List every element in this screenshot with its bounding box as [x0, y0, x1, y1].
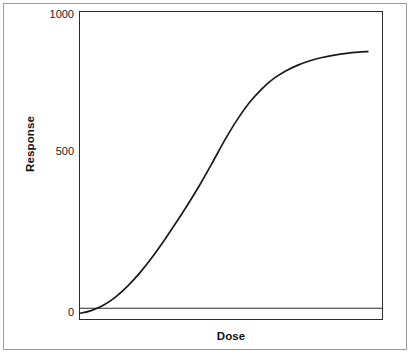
- chart-figure: 1000 500 0 Response Dose: [0, 0, 412, 355]
- y-tick-label-0: 0: [34, 307, 74, 318]
- y-tick-label-500: 500: [34, 146, 74, 157]
- y-tick-label-1000: 1000: [34, 9, 74, 20]
- x-axis-title: Dose: [79, 330, 383, 342]
- plot-canvas: [79, 11, 383, 320]
- dose-response-curve: [79, 52, 368, 314]
- y-axis-title: Response: [24, 94, 36, 194]
